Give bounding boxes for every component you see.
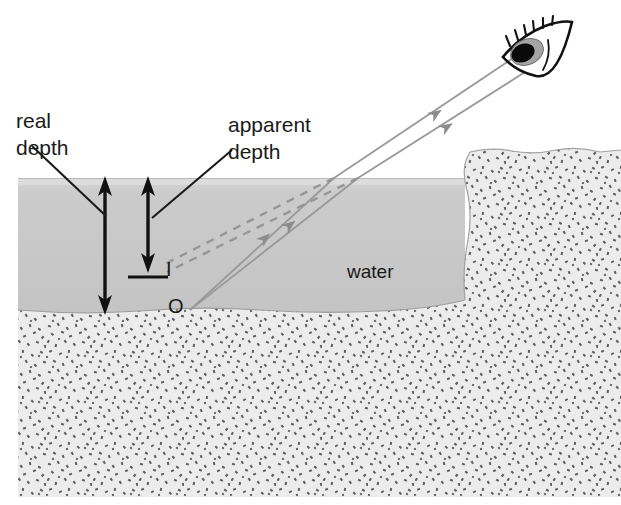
- real-depth-label-line2: depth: [16, 136, 69, 159]
- rock-ledge: [464, 148, 621, 497]
- water-body: [18, 178, 465, 313]
- water-label: water: [346, 261, 394, 282]
- diagram-canvas: real depth apparent depth I O water: [0, 0, 621, 505]
- real-depth-label-line1: real: [16, 109, 51, 132]
- object-point-label: O: [168, 295, 184, 317]
- water-fill: [18, 178, 465, 313]
- apparent-depth-label-line2: depth: [228, 140, 281, 163]
- image-point-label: I: [166, 258, 172, 280]
- sand-bed-fill: [18, 300, 465, 497]
- apparent-depth-label-line1: apparent: [228, 113, 311, 136]
- rock-ledge-fill: [464, 148, 621, 497]
- refraction-apparent-depth-diagram: real depth apparent depth I O water: [0, 0, 621, 505]
- sand-bed: [18, 300, 465, 497]
- water-surface-band: [18, 178, 465, 185]
